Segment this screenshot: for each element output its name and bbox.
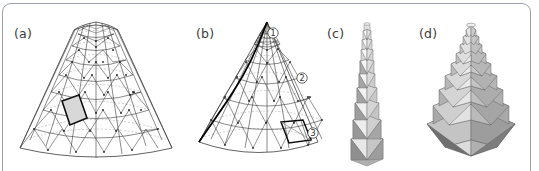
- figure-root: (a): [0, 0, 539, 171]
- panel-a-label: (a): [14, 26, 32, 41]
- panel-a-meridians: [20, 22, 172, 158]
- panel-c-facets: [351, 23, 383, 166]
- panel-b-marker-1-label: 1: [270, 29, 275, 38]
- panel-d-facets: [427, 23, 515, 156]
- panel-b-label: (b): [196, 26, 214, 41]
- panel-b-marker-2: 2: [297, 73, 307, 83]
- panel-b-marker-2-label: 2: [299, 74, 304, 83]
- panel-b: (b): [185, 0, 330, 171]
- panel-c-label: (c): [327, 26, 344, 41]
- panel-d: (d): [405, 0, 539, 171]
- panel-d-label: (d): [419, 26, 437, 41]
- panel-b-marker-1: 1: [268, 28, 278, 38]
- panel-a: (a): [0, 0, 190, 171]
